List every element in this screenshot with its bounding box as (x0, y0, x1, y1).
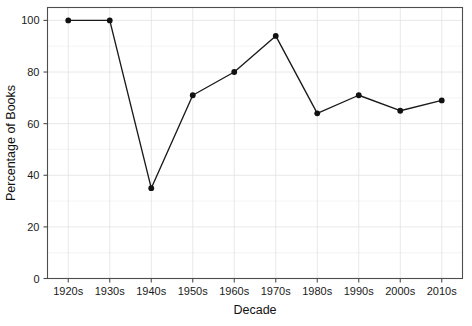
y-tick-label: 20 (27, 221, 39, 233)
x-tick-label: 1980s (302, 285, 332, 297)
x-tick-label: 1970s (261, 285, 291, 297)
y-tick-label: 80 (27, 66, 39, 78)
data-point-marker (397, 108, 403, 114)
y-tick-label: 0 (33, 273, 39, 285)
data-point-marker (273, 33, 279, 39)
x-tick-label: 1920s (53, 285, 83, 297)
chart-figure: 0204060801001920s1930s1940s1950s1960s197… (0, 0, 472, 326)
x-tick-label: 2010s (427, 285, 457, 297)
line-chart: 0204060801001920s1930s1940s1950s1960s197… (0, 0, 472, 326)
x-tick-label: 1990s (344, 285, 374, 297)
x-tick-label: 1950s (178, 285, 208, 297)
data-point-marker (107, 18, 113, 24)
y-tick-label: 100 (21, 14, 39, 26)
chart-background (0, 0, 472, 326)
y-axis-title: Percentage of Books (4, 85, 18, 201)
x-tick-label: 2000s (385, 285, 415, 297)
x-tick-label: 1940s (136, 285, 166, 297)
data-point-marker (439, 98, 445, 104)
data-point-marker (356, 92, 362, 98)
x-tick-label: 1930s (95, 285, 125, 297)
data-point-marker (314, 110, 320, 116)
data-point-marker (231, 69, 237, 75)
data-point-marker (148, 185, 154, 191)
data-point-marker (190, 92, 196, 98)
y-tick-label: 60 (27, 118, 39, 130)
x-tick-label: 1960s (219, 285, 249, 297)
y-tick-label: 40 (27, 169, 39, 181)
x-axis-title: Decade (233, 303, 276, 317)
data-point-marker (65, 18, 71, 24)
